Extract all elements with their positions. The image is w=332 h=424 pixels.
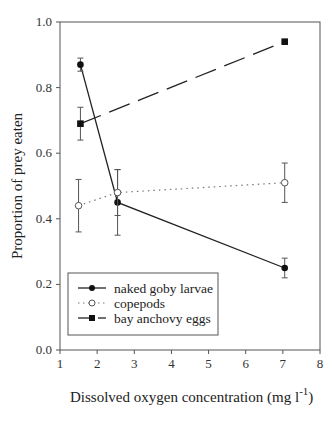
- data-point: [114, 189, 121, 196]
- series-bay-anchovy-eggs: [77, 38, 288, 140]
- y-tick-label: 0.2: [36, 276, 52, 291]
- y-axis: 0.00.20.40.60.81.0: [36, 14, 60, 357]
- x-tick-label: 8: [317, 356, 324, 371]
- data-point: [281, 179, 288, 186]
- filled-circle-icon: [89, 285, 95, 291]
- data-series: [75, 38, 288, 277]
- x-axis: 12345678: [57, 350, 324, 371]
- data-point: [75, 202, 82, 209]
- filled-square-icon: [89, 315, 95, 321]
- series-copepods: [75, 163, 288, 232]
- x-tick-label: 7: [280, 356, 287, 371]
- legend: naked goby larvae copepods bay anchovy e…: [68, 273, 218, 335]
- data-point: [281, 265, 288, 272]
- legend-label: bay anchovy eggs: [114, 311, 211, 326]
- open-circle-icon: [89, 300, 95, 306]
- x-tick-label: 3: [131, 356, 138, 371]
- series-naked-goby-larvae: [77, 58, 288, 278]
- line-chart: 0.00.20.40.60.81.0 12345678 naked goby l…: [0, 0, 332, 424]
- x-tick-label: 5: [205, 356, 212, 371]
- x-tick-label: 6: [242, 356, 249, 371]
- y-tick-label: 0.8: [36, 80, 52, 95]
- x-tick-label: 1: [57, 356, 64, 371]
- legend-label: naked goby larvae: [114, 281, 213, 296]
- x-tick-label: 4: [168, 356, 175, 371]
- y-tick-label: 0.6: [36, 145, 53, 160]
- legend-label: copepods: [114, 296, 165, 311]
- x-tick-label: 2: [94, 356, 101, 371]
- data-point: [77, 120, 84, 127]
- x-axis-title: Dissolved oxygen concentration (mg l-1): [70, 385, 313, 406]
- data-point: [281, 38, 288, 45]
- y-tick-label: 0.0: [36, 342, 52, 357]
- y-tick-label: 0.4: [36, 211, 53, 226]
- y-tick-label: 1.0: [36, 14, 52, 29]
- y-axis-title: Proportion of prey eaten: [9, 112, 25, 259]
- data-point: [77, 61, 84, 68]
